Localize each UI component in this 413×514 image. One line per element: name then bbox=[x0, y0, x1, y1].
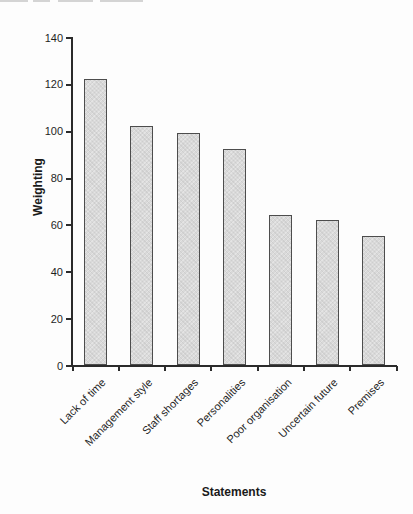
x-category-label-lack-of-time: Lack of time bbox=[58, 376, 108, 426]
y-axis-line bbox=[71, 37, 73, 367]
y-tick-label: 40 bbox=[28, 266, 63, 278]
y-tick-label: 60 bbox=[28, 219, 63, 231]
scanned-bar-chart-page: Weighting 020406080100120140 Lack of tim… bbox=[0, 0, 413, 514]
x-tick-mark bbox=[118, 366, 120, 371]
y-tick-label: 80 bbox=[28, 172, 63, 184]
x-category-label-premises: Premises bbox=[345, 376, 386, 417]
y-tick-label: 20 bbox=[28, 313, 63, 325]
y-tick-label: 140 bbox=[28, 32, 63, 44]
y-tick-label: 120 bbox=[28, 78, 63, 90]
bar-poor-organisation bbox=[269, 215, 292, 365]
bar-lack-of-time bbox=[84, 79, 107, 365]
x-axis-line bbox=[71, 365, 397, 367]
y-tick-label: 100 bbox=[28, 125, 63, 137]
x-tick-mark bbox=[210, 366, 212, 371]
y-tick-label: 0 bbox=[28, 360, 63, 372]
x-tick-mark bbox=[349, 366, 351, 371]
y-axis-title: Weighting bbox=[31, 158, 45, 216]
x-tick-mark bbox=[72, 366, 74, 371]
x-tick-mark bbox=[164, 366, 166, 371]
x-tick-mark bbox=[257, 366, 259, 371]
bar-personalities bbox=[223, 149, 246, 365]
bar-management-style bbox=[130, 126, 153, 365]
bar-staff-shortages bbox=[177, 133, 200, 365]
bar-uncertain-future bbox=[316, 220, 339, 365]
x-tick-mark bbox=[396, 366, 398, 371]
x-tick-mark bbox=[303, 366, 305, 371]
x-axis-title: Statements bbox=[202, 485, 267, 499]
bar-premises bbox=[362, 236, 385, 365]
bar-chart: Weighting 020406080100120140 Lack of tim… bbox=[0, 0, 413, 514]
